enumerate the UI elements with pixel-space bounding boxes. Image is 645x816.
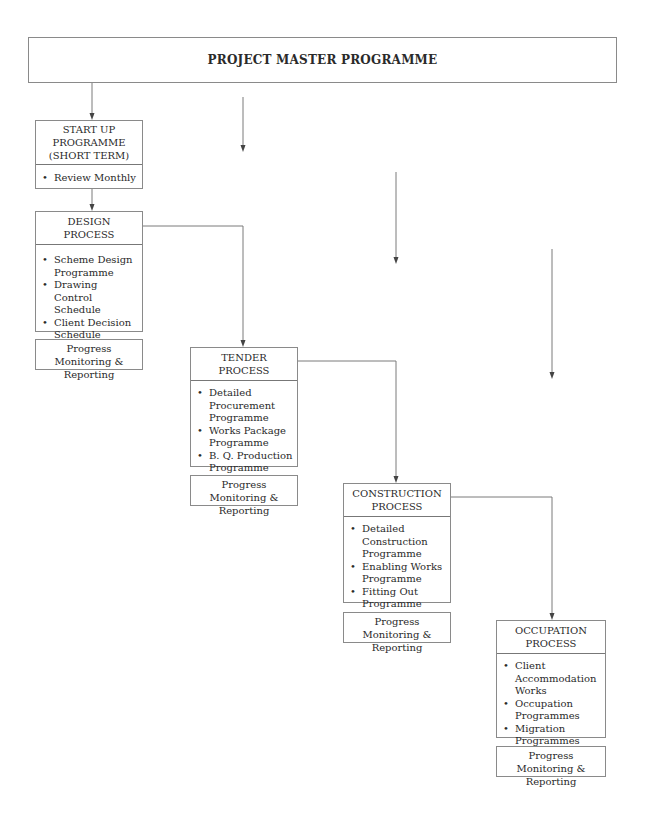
occupation-items: Client Accommodation Works Occupation Pr… xyxy=(497,654,605,753)
list-item: Client Decision Schedule xyxy=(42,317,138,342)
list-item: Enabling Works Programme xyxy=(350,561,446,586)
tender-title-line: TENDER xyxy=(193,351,295,364)
tender-process-box: TENDER PROCESS Detailed Procurement Prog… xyxy=(190,347,298,467)
tender-items: Detailed Procurement Programme Works Pac… xyxy=(191,381,297,480)
tender-progress-monitoring-box: Progress Monitoring & Reporting xyxy=(190,475,298,506)
list-item: Detailed Construction Programme xyxy=(350,523,446,561)
startup-title-line: PROGRAMME xyxy=(38,136,140,149)
occupation-title-line: OCCUPATION xyxy=(499,624,603,637)
progress-monitoring-label: Progress Monitoring & Reporting xyxy=(517,750,586,787)
list-item: Fitting Out Programme xyxy=(350,586,446,611)
progress-monitoring-label: Progress Monitoring & Reporting xyxy=(55,343,124,380)
startup-items: Review Monthly xyxy=(36,165,142,190)
startup-header: START UP PROGRAMME (SHORT TERM) xyxy=(36,121,142,165)
construction-progress-monitoring-box: Progress Monitoring & Reporting xyxy=(343,612,451,643)
design-title-line: PROCESS xyxy=(38,228,140,241)
startup-programme-box: START UP PROGRAMME (SHORT TERM) Review M… xyxy=(35,120,143,189)
startup-title-line: (SHORT TERM) xyxy=(38,149,140,162)
list-item: Review Monthly xyxy=(42,172,138,185)
progress-monitoring-label: Progress Monitoring & Reporting xyxy=(363,616,432,653)
list-item: Detailed Procurement Programme xyxy=(197,387,293,425)
construction-title-line: PROCESS xyxy=(346,500,448,513)
construction-process-box: CONSTRUCTION PROCESS Detailed Constructi… xyxy=(343,483,451,603)
occupation-progress-monitoring-box: Progress Monitoring & Reporting xyxy=(496,746,606,777)
design-title-line: DESIGN xyxy=(38,215,140,228)
master-title: PROJECT MASTER PROGRAMME xyxy=(208,53,438,67)
occupation-title-line: PROCESS xyxy=(499,637,603,650)
tender-header: TENDER PROCESS xyxy=(191,348,297,381)
list-item: Migration Programmes xyxy=(503,723,601,748)
occupation-header: OCCUPATION PROCESS xyxy=(497,621,605,654)
tender-title-line: PROCESS xyxy=(193,364,295,377)
arrowheads xyxy=(90,113,555,620)
startup-title-line: START UP xyxy=(38,123,140,136)
list-item: Works Package Programme xyxy=(197,425,293,450)
construction-items: Detailed Construction Programme Enabling… xyxy=(344,517,450,616)
list-item: Client Accommodation Works xyxy=(503,660,601,698)
project-master-programme-box: PROJECT MASTER PROGRAMME xyxy=(28,37,617,83)
list-item: Scheme Design Programme xyxy=(42,254,138,279)
construction-header: CONSTRUCTION PROCESS xyxy=(344,484,450,517)
design-progress-monitoring-box: Progress Monitoring & Reporting xyxy=(35,339,143,370)
occupation-process-box: OCCUPATION PROCESS Client Accommodation … xyxy=(496,620,606,738)
list-item: B. Q. Production Programme xyxy=(197,450,293,475)
list-item: Occupation Programmes xyxy=(503,698,601,723)
progress-monitoring-label: Progress Monitoring & Reporting xyxy=(210,479,279,516)
design-items: Scheme Design Programme Drawing Control … xyxy=(36,245,142,347)
list-item: Drawing Control Schedule xyxy=(42,279,138,317)
construction-title-line: CONSTRUCTION xyxy=(346,487,448,500)
design-header: DESIGN PROCESS xyxy=(36,212,142,245)
design-process-box: DESIGN PROCESS Scheme Design Programme D… xyxy=(35,211,143,332)
